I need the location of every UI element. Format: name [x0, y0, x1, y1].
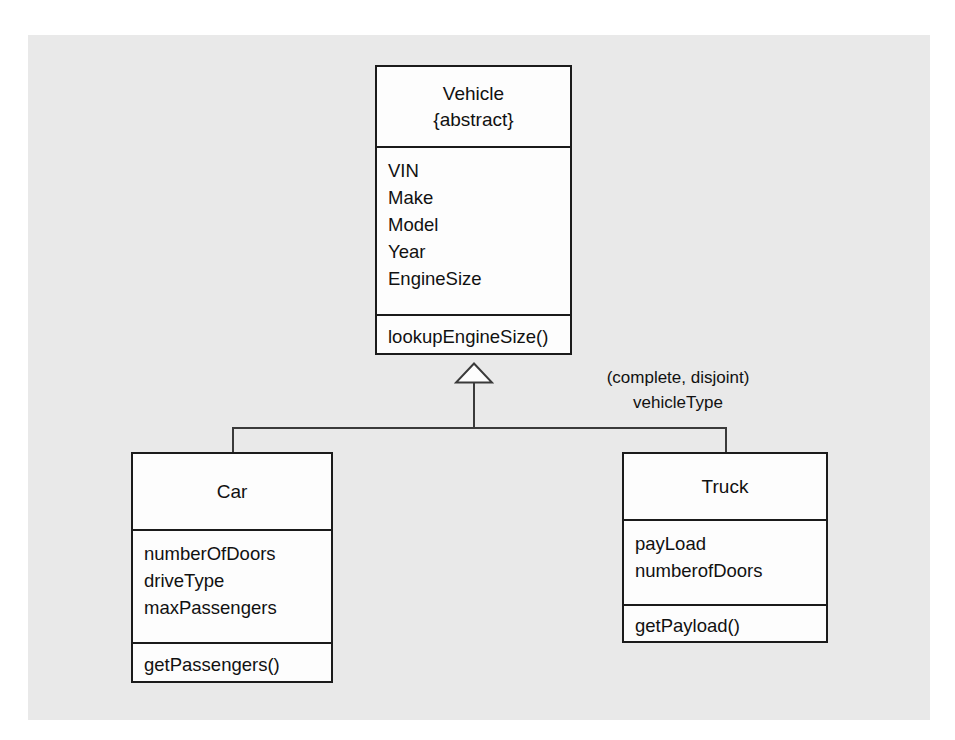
- car-name-compartment: Car: [133, 454, 331, 529]
- uml-class-diagram-screenshot: Vehicle {abstract} VIN Make Model Year E…: [0, 0, 955, 740]
- hollow-triangle-svg: [454, 362, 494, 384]
- car-class-name: Car: [217, 479, 248, 505]
- generalization-branch-car: [232, 427, 234, 453]
- generalization-discriminator-text: vehicleType: [553, 390, 803, 415]
- vehicle-attribute: Model: [388, 211, 570, 238]
- vehicle-attribute: Year: [388, 238, 570, 265]
- truck-operation: getPayload(): [635, 612, 826, 639]
- vehicle-class-name: Vehicle: [443, 81, 504, 107]
- generalization-stem: [473, 382, 475, 429]
- car-operation: getPassengers(): [144, 651, 331, 678]
- truck-name-compartment: Truck: [624, 454, 826, 519]
- truck-class-name: Truck: [702, 474, 749, 500]
- diagram-canvas: Vehicle {abstract} VIN Make Model Year E…: [28, 35, 930, 720]
- car-attribute: numberOfDoors: [144, 540, 331, 567]
- generalization-triangle-icon: [454, 362, 494, 384]
- car-operations-compartment: getPassengers(): [133, 642, 331, 685]
- class-box-truck[interactable]: Truck payLoad numberofDoors getPayload(): [622, 452, 828, 643]
- generalization-constraint-label: (complete, disjoint) vehicleType: [553, 365, 803, 415]
- class-box-car[interactable]: Car numberOfDoors driveType maxPassenger…: [131, 452, 333, 683]
- car-attribute: maxPassengers: [144, 594, 331, 621]
- vehicle-name-compartment: Vehicle {abstract}: [377, 67, 570, 146]
- vehicle-operations-compartment: lookupEngineSize(): [377, 314, 570, 357]
- vehicle-attribute: VIN: [388, 157, 570, 184]
- truck-attributes-compartment: payLoad numberofDoors: [624, 519, 826, 604]
- truck-attribute: payLoad: [635, 530, 826, 557]
- generalization-bus-line: [232, 427, 727, 429]
- car-attribute: driveType: [144, 567, 331, 594]
- vehicle-operation: lookupEngineSize(): [388, 323, 570, 350]
- vehicle-attribute: Make: [388, 184, 570, 211]
- generalization-constraint-text: (complete, disjoint): [553, 365, 803, 390]
- truck-attribute: numberofDoors: [635, 557, 826, 584]
- vehicle-attribute: EngineSize: [388, 265, 570, 292]
- truck-operations-compartment: getPayload(): [624, 604, 826, 645]
- class-box-vehicle[interactable]: Vehicle {abstract} VIN Make Model Year E…: [375, 65, 572, 355]
- vehicle-abstract-marker: {abstract}: [433, 107, 513, 133]
- car-attributes-compartment: numberOfDoors driveType maxPassengers: [133, 529, 331, 642]
- vehicle-attributes-compartment: VIN Make Model Year EngineSize: [377, 146, 570, 314]
- generalization-branch-truck: [725, 427, 727, 453]
